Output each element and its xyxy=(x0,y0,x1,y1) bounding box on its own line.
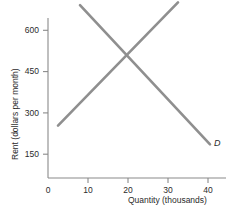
x-tick-label-10: 10 xyxy=(78,186,98,195)
x-axis-title: Quantity (thousands) xyxy=(128,196,207,205)
y-axis-title: Rent (dollars per month) xyxy=(11,68,20,160)
x-tick-label-30: 30 xyxy=(158,186,178,195)
supply-demand-chart: 600 450 300 150 0 10 20 30 40 Rent (doll… xyxy=(0,0,238,212)
x-tick-label-40: 40 xyxy=(198,186,218,195)
demand-curve xyxy=(80,5,210,144)
x-axis-ticks xyxy=(88,178,208,183)
x-tick-label-20: 20 xyxy=(118,186,138,195)
y-tick-label-600: 600 xyxy=(8,26,39,35)
supply-curve xyxy=(58,2,178,125)
y-axis-ticks xyxy=(43,30,48,154)
demand-curve-label: D xyxy=(214,139,221,148)
x-tick-label-0: 0 xyxy=(38,186,58,195)
